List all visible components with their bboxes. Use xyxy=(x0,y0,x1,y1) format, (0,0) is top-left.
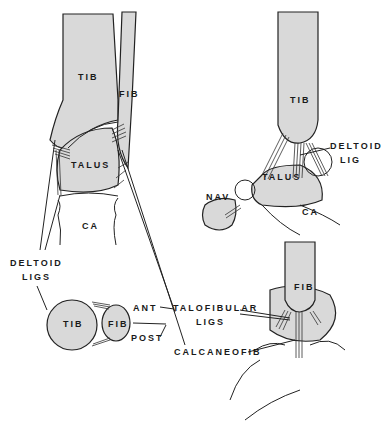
anterior-view: TIB FIB TALUS CA xyxy=(50,12,140,245)
label-post: POST xyxy=(131,333,164,343)
ant-arrow xyxy=(160,307,174,309)
label-talofibular: TALOFIBULAR xyxy=(173,303,258,313)
label-fibula-lateral: FIB xyxy=(294,282,315,292)
deltoid-axial-arrow xyxy=(37,286,47,310)
fibula-lateral xyxy=(285,242,315,312)
tibia-bone-medial xyxy=(278,12,318,143)
label-fibula-anterior: FIB xyxy=(119,89,140,99)
lateral-view: FIB xyxy=(230,242,345,420)
label-talus-anterior: TALUS xyxy=(71,160,110,170)
label-deltoid-ligs-line2: LIGS xyxy=(22,272,51,282)
label-calcaneofib: CALCANEOFIB xyxy=(174,347,262,357)
label-fibula-axial: FIB xyxy=(108,319,129,329)
label-tibia-anterior: TIB xyxy=(78,72,99,82)
navicular-bone xyxy=(203,198,237,230)
label-talus-medial: TALUS xyxy=(262,172,301,182)
label-tibia-medial: TIB xyxy=(290,95,311,105)
label-deltoid-lig-line2: LIG xyxy=(340,155,361,165)
label-tibia-axial: TIB xyxy=(63,319,84,329)
label-deltoid-ligs: DELTOID xyxy=(10,258,63,268)
label-calcaneus-anterior: CA xyxy=(82,221,99,231)
label-deltoid-lig: DELTOID xyxy=(330,141,383,151)
label-ant: ANT xyxy=(133,303,158,313)
label-calcaneus-medial: CA xyxy=(302,207,319,217)
ankle-ligament-diagram: TIB FIB TALUS CA TIB TALUS NAV CA DELTOI… xyxy=(0,0,384,429)
label-talofibular-line2: LIGS xyxy=(196,317,225,327)
axial-view: DELTOID LIGS TIB FIB ANT POST xyxy=(10,258,174,350)
calcaneus-outline xyxy=(58,193,118,245)
fib-arrow xyxy=(133,323,166,324)
medial-view: TIB TALUS NAV CA DELTOID LIG xyxy=(203,12,383,235)
label-navicular: NAV xyxy=(206,192,230,202)
